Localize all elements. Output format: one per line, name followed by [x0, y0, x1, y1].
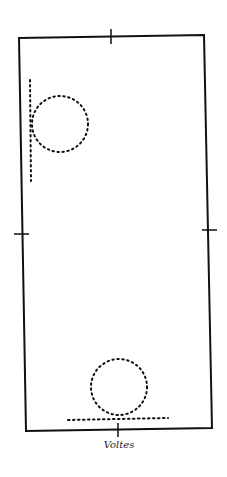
track-line-vertical — [30, 80, 31, 181]
track-line-horizontal — [68, 418, 168, 420]
arena-outline — [19, 35, 212, 431]
arena-diagram — [0, 0, 227, 477]
volte-circle-upper — [32, 96, 88, 152]
volte-circle-lower — [91, 359, 147, 415]
diagram-caption: Voltes — [0, 439, 227, 450]
